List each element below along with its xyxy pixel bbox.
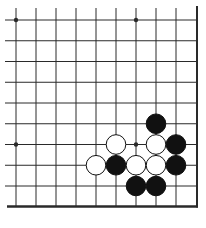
white-stone[interactable] — [86, 155, 106, 175]
board-grid — [5, 6, 198, 208]
black-stone[interactable] — [146, 114, 166, 134]
black-stone[interactable] — [166, 155, 186, 175]
star-point — [134, 142, 138, 146]
white-stone[interactable] — [146, 135, 166, 155]
white-stone[interactable] — [126, 155, 146, 175]
black-stone[interactable] — [106, 155, 126, 175]
black-stone[interactable] — [146, 176, 166, 196]
star-point — [14, 142, 18, 146]
black-stone[interactable] — [126, 176, 146, 196]
star-point — [134, 18, 138, 22]
black-stone[interactable] — [166, 135, 186, 155]
white-stone[interactable] — [146, 155, 166, 175]
white-stone[interactable] — [106, 135, 126, 155]
star-point — [14, 18, 18, 22]
go-board[interactable] — [0, 0, 206, 228]
